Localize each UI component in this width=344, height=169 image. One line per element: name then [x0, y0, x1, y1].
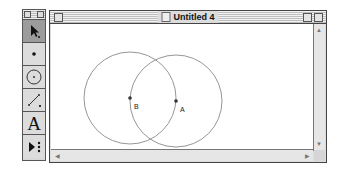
text-a-icon: A: [27, 114, 41, 133]
point-a[interactable]: [174, 99, 178, 103]
toolbox-palette: A: [22, 9, 46, 161]
toolbox-titlebar[interactable]: [23, 10, 45, 20]
window-title: Untitled 4: [173, 12, 214, 22]
compass-tool[interactable]: [23, 66, 45, 89]
toolbox-zoom-box[interactable]: [37, 11, 44, 18]
collapse-box[interactable]: [314, 13, 323, 22]
sketch-window: Untitled 4 B A ▲ ▼ ◀ ▶: [49, 10, 327, 163]
text-tool[interactable]: A: [23, 112, 45, 135]
toolbox-close-box[interactable]: [24, 11, 31, 18]
selection-arrow-tool[interactable]: [23, 20, 45, 43]
scroll-right-arrow-icon[interactable]: ▶: [302, 150, 312, 160]
point-tool[interactable]: [23, 43, 45, 66]
line-segment-icon: [26, 92, 42, 108]
point-b[interactable]: [128, 96, 132, 100]
custom-tool-icon: [26, 139, 42, 155]
zoom-box[interactable]: [303, 13, 312, 22]
vertical-scrollbar[interactable]: ▲ ▼: [313, 24, 325, 150]
window-title-area: Untitled 4: [157, 11, 218, 23]
sketch-canvas[interactable]: B A: [51, 24, 314, 151]
circle-compass-icon: [25, 68, 43, 86]
scroll-left-arrow-icon[interactable]: ◀: [52, 150, 62, 160]
scroll-up-arrow-icon[interactable]: ▲: [314, 25, 324, 35]
label-b[interactable]: B: [134, 103, 139, 110]
document-icon: [161, 12, 170, 22]
custom-tool[interactable]: [23, 135, 45, 158]
point-icon: [27, 47, 41, 61]
resize-grip-icon[interactable]: [314, 150, 325, 161]
arrow-pointer-icon: [27, 23, 41, 39]
construction-drawing: B A: [51, 24, 313, 150]
horizontal-scrollbar[interactable]: ◀ ▶: [51, 149, 313, 161]
close-box[interactable]: [54, 13, 63, 22]
label-a[interactable]: A: [180, 106, 185, 113]
straightedge-tool[interactable]: [23, 89, 45, 112]
scroll-down-arrow-icon[interactable]: ▼: [314, 139, 324, 149]
window-titlebar[interactable]: Untitled 4: [50, 11, 326, 24]
